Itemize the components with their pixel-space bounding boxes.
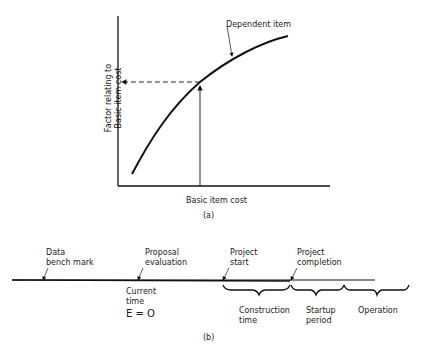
marker-line: Project <box>230 248 257 258</box>
period-operation: Operation <box>358 306 398 316</box>
current-time-label: Current time E = O <box>126 287 156 320</box>
period-line: Operation <box>358 306 398 316</box>
curve-label: Dependent item <box>226 20 291 30</box>
marker-project-completion: Project completion <box>297 248 342 268</box>
period-line: time <box>239 316 290 326</box>
marker-project-start: Project start <box>230 248 257 268</box>
startup-brace <box>291 285 344 295</box>
marker-proposal-evaluation: Proposal evaluation <box>145 248 187 268</box>
caption-a: (a) <box>203 211 214 221</box>
marker-line: bench mark <box>46 258 94 268</box>
marker-line: evaluation <box>145 258 187 268</box>
curve-label-pointer <box>227 26 232 56</box>
dependent-item-curve <box>132 36 288 174</box>
current-line: Current <box>126 287 156 297</box>
period-construction: Construction time <box>239 306 290 326</box>
y-label-line-1: Factor relating to <box>104 28 114 168</box>
marker-line: start <box>230 258 257 268</box>
period-startup: Startup period <box>306 306 336 326</box>
x-axis-label: Basic item cost <box>186 196 247 206</box>
period-line: Construction <box>239 306 290 316</box>
y-label-line-2: Basic item cost <box>114 28 124 168</box>
marker-line: Proposal <box>145 248 187 258</box>
caption-b: (b) <box>203 333 214 343</box>
axes <box>118 16 330 186</box>
y-axis-label: Factor relating to Basic item cost <box>104 28 124 168</box>
current-line: E = O <box>126 307 156 320</box>
operation-brace <box>344 285 409 295</box>
marker-line: Project <box>297 248 342 258</box>
construction-brace <box>223 285 290 295</box>
marker-line: Data <box>46 248 94 258</box>
marker-data-bench-mark: Data bench mark <box>46 248 94 268</box>
marker-line: completion <box>297 258 342 268</box>
current-line: time <box>126 297 156 307</box>
period-line: Startup <box>306 306 336 316</box>
diagram-canvas <box>0 0 425 352</box>
period-line: period <box>306 316 336 326</box>
